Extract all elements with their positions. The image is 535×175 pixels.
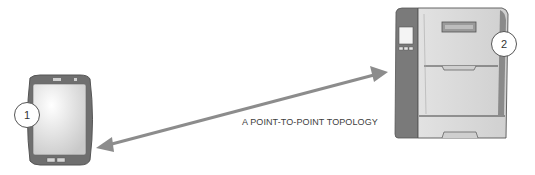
node-badge-2: 2 — [491, 31, 517, 57]
node-badge-2-label: 2 — [501, 38, 507, 50]
connection-arrow — [96, 66, 388, 152]
diagram-caption: A POINT-TO-POINT TOPOLOGY — [242, 117, 378, 127]
node-badge-1: 1 — [14, 102, 40, 128]
printer-icon — [395, 8, 508, 138]
topology-diagram — [0, 0, 535, 175]
node-badge-1-label: 1 — [24, 109, 30, 121]
